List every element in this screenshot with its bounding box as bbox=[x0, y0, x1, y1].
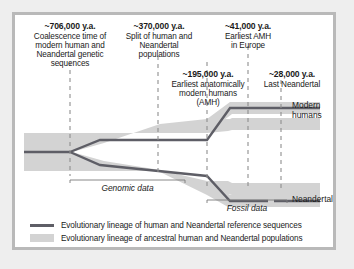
annotation-date: ~706,000 y.a. bbox=[18, 22, 122, 32]
annotation-line-1: Last Neandertal bbox=[254, 80, 330, 89]
brace-label-fossil-data: Fossil data bbox=[207, 203, 287, 213]
annotation-line-1: Earliest AMH bbox=[207, 32, 289, 41]
legend-label-ancestral-populations: Evolutionary lineage of ancestral human … bbox=[61, 234, 302, 243]
annotation-date: ~28,000 y.a. bbox=[254, 70, 330, 80]
annotation-line-1: Split of human and bbox=[112, 32, 206, 41]
annotation-last-neandertal: ~28,000 y.a. Last Neandertal bbox=[254, 70, 330, 89]
label-modern-humans-line-2: humans bbox=[292, 110, 322, 120]
annotation-date: ~41,000 y.a. bbox=[207, 22, 289, 32]
legend-label-reference-sequences: Evolutionary lineage of human and Neande… bbox=[61, 221, 302, 230]
annotation-earliest-amh: ~195,000 y.a. Earliest anatomically mode… bbox=[160, 70, 256, 107]
brace-label-fossil-text: Fossil data bbox=[227, 203, 268, 213]
brace-label-genomic-data: Genomic data bbox=[70, 183, 185, 193]
legend-item-ancestral-populations: Evolutionary lineage of ancestral human … bbox=[30, 232, 330, 244]
annotation-line-2: in Europe bbox=[207, 41, 289, 50]
legend-item-reference-sequences: Evolutionary lineage of human and Neande… bbox=[30, 219, 330, 231]
annotation-line-1: Coalescence time of bbox=[18, 32, 122, 41]
annotation-date: ~195,000 y.a. bbox=[160, 70, 256, 80]
label-modern-humans: Modern humans bbox=[292, 101, 322, 120]
label-neandertal: Neandertal bbox=[292, 195, 333, 205]
annotation-line-3: (AMH) bbox=[160, 98, 256, 107]
annotation-line-3: Neandertal genetic bbox=[18, 50, 122, 59]
annotation-line-2: modern human and bbox=[18, 41, 122, 50]
annotation-amh-europe: ~41,000 y.a. Earliest AMH in Europe bbox=[207, 22, 289, 50]
annotation-line-3: populations bbox=[112, 50, 206, 59]
label-modern-humans-line-1: Modern bbox=[292, 100, 320, 110]
legend-swatch-line-icon bbox=[30, 224, 54, 227]
annotation-line-4: sequences bbox=[18, 59, 122, 68]
annotation-split: ~370,000 y.a. Split of human and Neander… bbox=[112, 22, 206, 59]
legend-swatch-band-icon bbox=[30, 234, 54, 242]
label-neandertal-text: Neandertal bbox=[292, 194, 333, 204]
legend: Evolutionary lineage of human and Neande… bbox=[30, 219, 330, 245]
annotation-coalescence: ~706,000 y.a. Coalescence time of modern… bbox=[18, 22, 122, 68]
annotation-line-2: Neandertal bbox=[112, 41, 206, 50]
annotation-line-1: Earliest anatomically bbox=[160, 80, 256, 89]
annotation-date: ~370,000 y.a. bbox=[112, 22, 206, 32]
brace-label-genomic-text: Genomic data bbox=[101, 183, 153, 193]
annotation-line-2: modern humans bbox=[160, 89, 256, 98]
band-upper-branch bbox=[72, 119, 207, 152]
figure-root: ~706,000 y.a. Coalescence time of modern… bbox=[0, 0, 354, 269]
